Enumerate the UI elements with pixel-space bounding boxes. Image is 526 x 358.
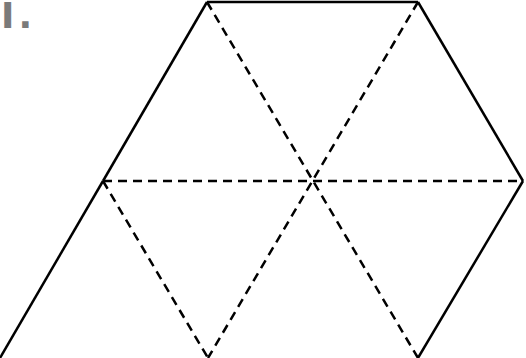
edge-upper-left xyxy=(103,2,207,181)
edge-extended-left xyxy=(0,181,103,358)
hexagon-diagram xyxy=(0,0,526,358)
edge-upper-right xyxy=(418,2,523,181)
edge-lower-right xyxy=(418,181,523,358)
dashed-lower-left xyxy=(103,181,208,358)
